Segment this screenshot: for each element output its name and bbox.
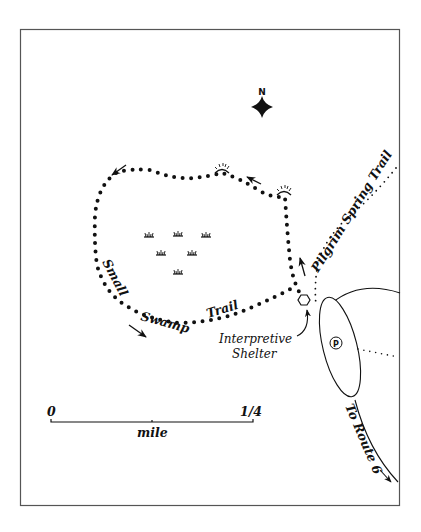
arrow-icon: [129, 325, 146, 337]
marsh-icon: [187, 250, 197, 255]
viewpoint-icon: [277, 185, 291, 195]
shelter-pointer-arrow: [297, 310, 308, 336]
map-frame: [21, 30, 400, 506]
trail-label-pilgrim-spring: Pilgrim Spring Trail: [307, 147, 395, 275]
viewpoint-icon: [215, 163, 229, 173]
arrow-icon: [300, 258, 305, 276]
shelter-hexagon-icon: [298, 295, 310, 305]
trail-label-swamp: Swamp: [139, 308, 191, 335]
parking-area: P To Route 6: [311, 288, 400, 482]
small-swamp-trail-path: [95, 169, 307, 323]
parking-connector-trail: [358, 349, 398, 357]
marsh-icon: [156, 250, 166, 255]
trail-label-small: Small: [99, 256, 131, 298]
marsh-icon: [173, 269, 183, 274]
scale-end-label: 1/4: [240, 404, 262, 419]
trail-label-trail: Trail: [204, 297, 240, 321]
scale-unit-label: mile: [137, 425, 168, 440]
road-outer-curve: [332, 288, 400, 303]
scale-bar-line: [51, 419, 253, 422]
marsh-icon: [201, 232, 211, 237]
shelter-label-line1: Interpretive: [218, 332, 292, 346]
parking-symbol: P: [333, 340, 339, 349]
scale-bar: 0 1/4 mile: [47, 404, 262, 440]
marsh-symbols: [144, 231, 211, 274]
marsh-icon: [144, 232, 154, 237]
north-star-icon: [251, 96, 273, 118]
shelter-label-line2: Shelter: [232, 347, 278, 361]
marsh-icon: [173, 231, 183, 236]
road-label: To Route 6: [342, 401, 385, 476]
compass-north-label: N: [258, 87, 266, 97]
trail-map: N Small Swamp Trail Pilgrim Spring Trail…: [0, 0, 421, 532]
scale-start-label: 0: [47, 404, 56, 419]
compass-rose: N: [251, 87, 273, 118]
